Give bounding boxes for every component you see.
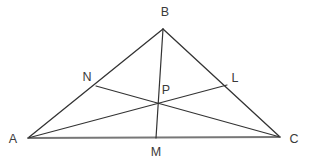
point-label-b: B: [161, 6, 170, 19]
point-label-p: P: [162, 84, 171, 97]
point-label-l: L: [231, 72, 238, 85]
triangle-diagram-canvas: [0, 0, 311, 162]
triangle-base-ac: [28, 137, 280, 138]
point-label-c: C: [289, 133, 298, 146]
point-label-n: N: [82, 71, 91, 84]
point-label-a: A: [9, 133, 18, 146]
point-label-m: M: [151, 146, 162, 159]
geometry-figure: A B C N L M P: [0, 0, 311, 162]
cevian-al: [28, 85, 227, 138]
triangle-side-ab: [28, 29, 163, 138]
